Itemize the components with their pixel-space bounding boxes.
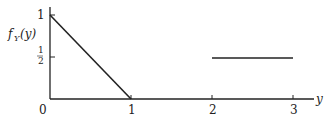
origin-label: 0	[39, 103, 47, 117]
density-segment-decreasing	[50, 15, 131, 99]
y-axis-label-arg: (y)	[20, 27, 36, 41]
chart-canvas: 1 1 2 f Y (y) 0 1 2 3 y	[0, 0, 327, 120]
y-tick-label-half-den: 2	[38, 56, 44, 66]
y-tick-label-half-num: 1	[38, 45, 44, 55]
density-chart: 1 1 2 f Y (y) 0 1 2 3 y	[0, 0, 327, 120]
y-tick-label-1: 1	[37, 8, 45, 22]
x-axis-label: y	[315, 92, 323, 106]
x-tick-label-1: 1	[128, 103, 136, 117]
x-tick-label-2: 2	[209, 103, 217, 117]
x-tick-label-3: 3	[290, 103, 298, 117]
